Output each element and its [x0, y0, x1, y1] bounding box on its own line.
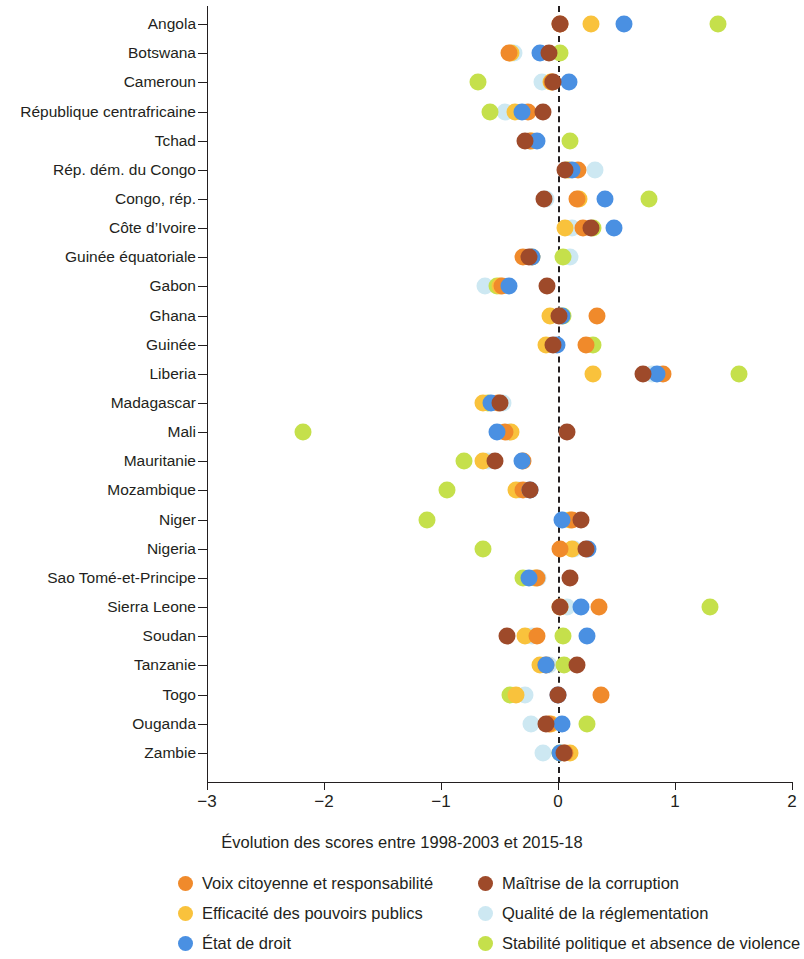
data-point-efficacite	[585, 365, 602, 382]
y-tick	[198, 753, 207, 754]
legend-item[interactable]: Maîtrise de la corruption	[478, 868, 804, 898]
y-axis-category-label: Tchad	[155, 133, 196, 149]
y-tick	[198, 724, 207, 725]
data-point-corruption	[552, 599, 569, 616]
legend-label: Maîtrise de la corruption	[502, 874, 679, 893]
y-axis-category-label: Côte d’Ivoire	[109, 220, 196, 236]
legend-item[interactable]: Stabilité politique et absence de violen…	[478, 928, 804, 958]
y-axis-category-label: Sao Tomé-et-Principe	[47, 570, 196, 586]
data-point-corruption	[561, 569, 578, 586]
y-axis-category-label: Soudan	[143, 628, 196, 644]
x-tick	[558, 782, 559, 790]
y-axis-category-label: Tanzanie	[134, 657, 196, 673]
data-point-stabilite	[554, 249, 571, 266]
data-point-stabilite	[710, 16, 727, 33]
data-point-corruption	[557, 161, 574, 178]
legend-item[interactable]: Voix citoyenne et responsabilité	[178, 868, 468, 898]
data-point-etat_de_droit	[573, 599, 590, 616]
y-axis-category-label: Ghana	[149, 308, 196, 324]
legend-swatch-efficacite	[178, 906, 193, 921]
data-point-corruption	[534, 103, 551, 120]
data-point-reglementation	[534, 744, 551, 761]
data-point-etat_de_droit	[513, 453, 530, 470]
data-point-corruption	[540, 45, 557, 62]
y-axis-category-label: République centrafricaine	[20, 104, 196, 120]
data-point-etat_de_droit	[538, 657, 555, 674]
data-point-stabilite	[438, 482, 455, 499]
data-point-stabilite	[641, 190, 658, 207]
dot-plot-figure: AngolaBotswanaCamerounRépublique centraf…	[0, 0, 804, 959]
data-point-corruption	[582, 220, 599, 237]
y-axis-line	[207, 6, 208, 783]
data-point-corruption	[635, 365, 652, 382]
y-tick	[198, 170, 207, 171]
data-point-stabilite	[294, 424, 311, 441]
y-axis-category-label: Togo	[162, 687, 196, 703]
data-point-corruption	[568, 657, 585, 674]
data-point-etat_de_droit	[553, 511, 570, 528]
data-point-corruption	[521, 482, 538, 499]
data-point-voix	[593, 686, 610, 703]
data-point-stabilite	[470, 74, 487, 91]
data-point-voix	[528, 628, 545, 645]
y-tick	[198, 316, 207, 317]
y-axis-category-label: Congo, rép.	[115, 191, 196, 207]
y-axis-category-label: Zambie	[144, 745, 196, 761]
x-tick-label: −1	[431, 793, 450, 810]
data-point-corruption	[517, 132, 534, 149]
legend-label: Qualité de la réglementation	[502, 904, 708, 923]
data-point-voix	[552, 540, 569, 557]
x-tick	[324, 782, 325, 790]
y-tick	[198, 199, 207, 200]
data-point-corruption	[545, 336, 562, 353]
data-point-voix	[500, 45, 517, 62]
data-point-etat_de_droit	[560, 74, 577, 91]
x-tick-label: −3	[197, 793, 216, 810]
y-tick	[198, 695, 207, 696]
y-axis-category-label: Botswana	[128, 45, 196, 61]
y-tick	[198, 374, 207, 375]
x-axis-origin-cap	[207, 773, 208, 782]
data-point-reglementation	[587, 161, 604, 178]
y-axis-category-label: Guinée équatoriale	[65, 249, 196, 265]
data-point-corruption	[559, 424, 576, 441]
data-point-stabilite	[731, 365, 748, 382]
legend-label: Efficacité des pouvoirs publics	[202, 904, 423, 923]
data-point-stabilite	[579, 715, 596, 732]
data-point-etat_de_droit	[579, 628, 596, 645]
y-tick	[198, 257, 207, 258]
y-tick	[198, 53, 207, 54]
data-point-etat_de_droit	[513, 103, 530, 120]
legend-swatch-reglementation	[478, 906, 493, 921]
x-tick-label: −2	[314, 793, 333, 810]
legend-item[interactable]: État de droit	[178, 928, 468, 958]
legend-item[interactable]: Efficacité des pouvoirs publics	[178, 898, 468, 928]
x-tick	[792, 782, 793, 790]
y-axis-category-label: Mozambique	[107, 482, 196, 498]
data-point-stabilite	[482, 103, 499, 120]
data-point-corruption	[551, 307, 568, 324]
y-axis-category-label: Niger	[159, 512, 196, 528]
y-tick	[198, 141, 207, 142]
y-tick	[198, 432, 207, 433]
y-tick	[198, 345, 207, 346]
data-point-corruption	[578, 540, 595, 557]
data-point-etat_de_droit	[489, 424, 506, 441]
data-point-corruption	[550, 686, 567, 703]
legend-label: État de droit	[202, 934, 291, 953]
data-point-corruption	[539, 278, 556, 295]
x-tick-label: 1	[670, 793, 679, 810]
data-point-voix	[578, 336, 595, 353]
legend-item[interactable]: Qualité de la réglementation	[478, 898, 804, 928]
x-axis-title: Évolution des scores entre 1998-2003 et …	[0, 833, 804, 852]
data-point-corruption	[520, 249, 537, 266]
data-point-efficacite	[557, 220, 574, 237]
data-point-corruption	[555, 744, 572, 761]
y-tick	[198, 520, 207, 521]
y-axis-category-label: Angola	[148, 16, 196, 32]
y-tick	[198, 549, 207, 550]
data-point-efficacite	[582, 16, 599, 33]
y-axis-category-label: Gabon	[149, 278, 196, 294]
legend-swatch-etat_de_droit	[178, 936, 193, 951]
y-axis-category-label: Guinée	[146, 337, 196, 353]
